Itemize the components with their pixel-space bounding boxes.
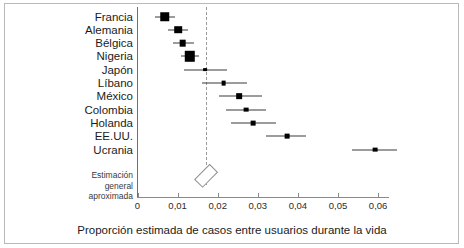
- study-label-lbano: Líbano: [98, 77, 133, 89]
- x-axis-tick-label: 0,03: [249, 200, 268, 211]
- study-label-blgica: Bélgica: [95, 37, 133, 49]
- overall-estimate-label-line1: Estimación: [13, 170, 133, 181]
- study-label-japn: Japón: [102, 64, 133, 76]
- overall-estimate-label: Estimación general aproximada: [13, 170, 133, 202]
- forest-plot-figure: 00,010,020,030,040,050,06 FranciaAlemani…: [0, 0, 464, 248]
- study-label-holanda: Holanda: [90, 117, 133, 129]
- point-estimate-marker: [373, 147, 378, 152]
- x-axis-tick-label: 0,05: [329, 200, 348, 211]
- x-axis-title: Proporción estimada de casos entre usuar…: [0, 224, 464, 236]
- x-axis-tick: [218, 193, 219, 198]
- x-axis-tick: [378, 193, 379, 198]
- study-label-ucrania: Ucrania: [93, 144, 133, 156]
- point-estimate-marker: [243, 107, 248, 112]
- point-estimate-marker: [221, 81, 226, 86]
- overall-estimate-label-line3: aproximada: [13, 191, 133, 202]
- point-estimate-marker: [185, 51, 195, 61]
- x-axis-tick-label: 0: [135, 200, 140, 211]
- point-estimate-marker: [179, 40, 186, 47]
- point-estimate-marker: [174, 26, 182, 34]
- x-axis-tick: [338, 193, 339, 198]
- x-axis-line: [137, 197, 389, 198]
- x-axis-tick-label: 0,01: [168, 200, 187, 211]
- x-axis-tick-label: 0,04: [289, 200, 308, 211]
- reference-line: [206, 7, 207, 185]
- plot-area: 00,010,020,030,040,050,06 FranciaAlemani…: [0, 0, 464, 248]
- study-label-eeuu: EE.UU.: [95, 130, 133, 142]
- study-label-nigeria: Nigeria: [97, 50, 133, 62]
- point-estimate-marker: [203, 68, 207, 72]
- study-label-colombia: Colombia: [84, 104, 133, 116]
- y-axis-line: [137, 7, 138, 197]
- point-estimate-marker: [237, 93, 243, 99]
- x-axis-tick-label: 0,06: [369, 200, 388, 211]
- x-axis-tick: [258, 193, 259, 198]
- study-label-alemania: Alemania: [85, 24, 133, 36]
- x-axis-tick: [138, 193, 139, 198]
- point-estimate-marker: [251, 121, 256, 126]
- study-label-francia: Francia: [95, 11, 133, 23]
- study-label-mxico: México: [97, 90, 133, 102]
- point-estimate-marker: [285, 134, 290, 139]
- x-axis-tick-label: 0,02: [208, 200, 227, 211]
- point-estimate-marker: [160, 12, 170, 22]
- x-axis-tick: [178, 193, 179, 198]
- x-axis-tick: [298, 193, 299, 198]
- overall-estimate-label-line2: general: [13, 181, 133, 192]
